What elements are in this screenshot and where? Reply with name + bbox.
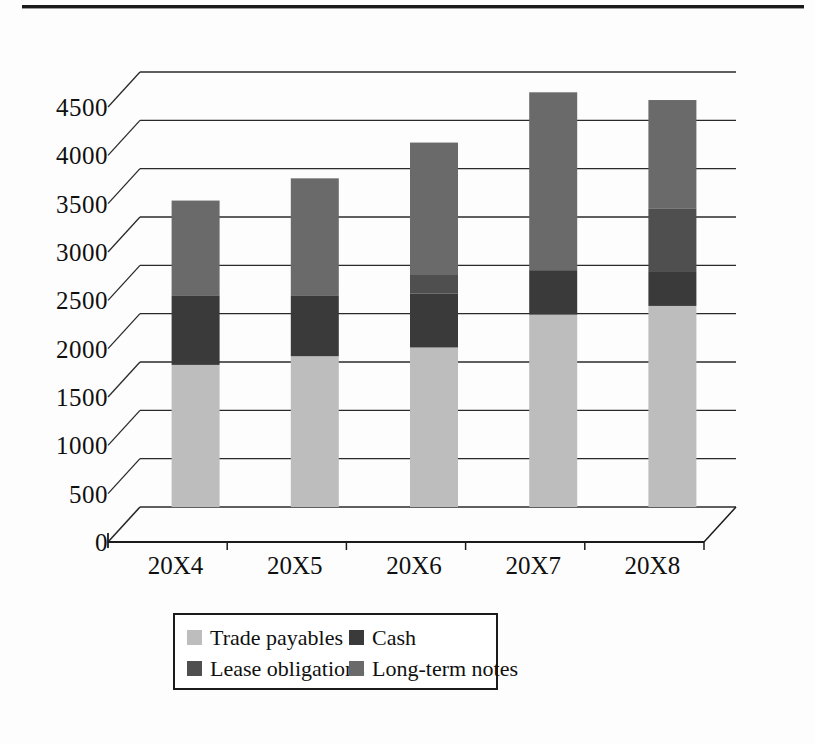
gridline-depth-leader bbox=[108, 169, 140, 204]
legend-grid: Trade payablesCashLease obligationsLong-… bbox=[187, 622, 486, 684]
gridline-depth-leader bbox=[108, 265, 140, 300]
bar-segment bbox=[529, 92, 577, 270]
y-axis-labels: 050010001500200025003000350040004500 bbox=[12, 0, 108, 600]
legend-entry: Cash bbox=[349, 627, 499, 649]
gridline-depth-leader bbox=[108, 507, 140, 542]
gridline-depth-leader bbox=[108, 314, 140, 349]
bar-segment bbox=[172, 365, 220, 507]
y-axis-tick-label: 1500 bbox=[56, 385, 108, 410]
x-axis-tick-label: 20X6 bbox=[386, 552, 442, 580]
y-axis-tick-label: 500 bbox=[69, 481, 108, 506]
gridline-depth-leader bbox=[108, 362, 140, 397]
legend-swatch-icon bbox=[349, 630, 364, 645]
floor-right-edge bbox=[704, 507, 736, 542]
y-axis-tick-label: 3000 bbox=[56, 240, 108, 265]
bar-segment bbox=[529, 270, 577, 314]
bar-segment bbox=[410, 293, 458, 347]
chart-svg bbox=[0, 0, 815, 600]
y-axis-tick-label: 0 bbox=[95, 530, 108, 555]
legend-entry: Lease obligations bbox=[187, 658, 349, 680]
x-axis-tick-label: 20X5 bbox=[267, 552, 323, 580]
bar-segment bbox=[291, 356, 339, 507]
legend-entry: Long-term notes bbox=[349, 658, 499, 680]
bar-segment bbox=[529, 315, 577, 507]
bar-segment bbox=[172, 295, 220, 365]
legend-swatch-icon bbox=[187, 661, 202, 676]
legend-label: Lease obligations bbox=[210, 658, 365, 680]
legend-label: Cash bbox=[372, 627, 416, 649]
bar-segment bbox=[648, 306, 696, 507]
gridline-depth-leader bbox=[108, 120, 140, 155]
gridline-depth-leader bbox=[108, 217, 140, 252]
y-axis-tick-label: 1000 bbox=[56, 433, 108, 458]
bar-segment bbox=[291, 178, 339, 295]
bar-segment bbox=[648, 208, 696, 271]
gridline-depth-leader bbox=[108, 410, 140, 445]
x-axis-tick-label: 20X7 bbox=[505, 552, 561, 580]
legend-swatch-icon bbox=[349, 661, 364, 676]
x-axis-tick-label: 20X4 bbox=[148, 552, 204, 580]
bar-segment bbox=[410, 143, 458, 275]
bar-segment bbox=[410, 348, 458, 508]
chart-canvas: 050010001500200025003000350040004500 20X… bbox=[0, 0, 815, 600]
gridline-depth-leader bbox=[108, 459, 140, 494]
page-root: 050010001500200025003000350040004500 20X… bbox=[0, 0, 815, 744]
gridline-depth-leader bbox=[108, 72, 140, 107]
x-axis-tick-label: 20X8 bbox=[625, 552, 681, 580]
legend-label: Long-term notes bbox=[372, 658, 518, 680]
bar-segment bbox=[410, 275, 458, 293]
legend-entry: Trade payables bbox=[187, 627, 349, 649]
y-axis-tick-label: 2500 bbox=[56, 288, 108, 313]
chart-legend: Trade payablesCashLease obligationsLong-… bbox=[173, 613, 498, 690]
legend-swatch-icon bbox=[187, 630, 202, 645]
y-axis-tick-label: 2000 bbox=[56, 336, 108, 361]
bar-segment bbox=[291, 295, 339, 356]
x-axis-labels: 20X420X520X620X720X8 bbox=[0, 552, 815, 592]
legend-label: Trade payables bbox=[210, 627, 343, 649]
y-axis-tick-label: 4500 bbox=[56, 95, 108, 120]
bar-segment bbox=[648, 271, 696, 306]
bar-segment bbox=[172, 201, 220, 296]
bar-segment bbox=[648, 100, 696, 208]
y-axis-tick-label: 4000 bbox=[56, 143, 108, 168]
y-axis-tick-label: 3500 bbox=[56, 191, 108, 216]
